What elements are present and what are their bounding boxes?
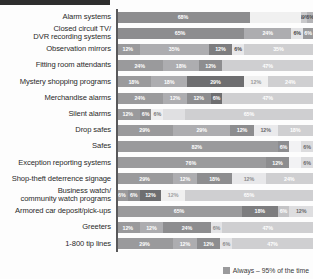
chart-row: Drop safes29%29%12%12%18% (0, 122, 313, 138)
chart-row: Closed circuit TV/ DVR recording systems… (0, 25, 313, 41)
stacked-bar: 12%12%24%6%47% (116, 222, 313, 233)
bar-segment (250, 12, 301, 23)
category-label: Armored car deposit/pick-ups (0, 207, 116, 215)
stacked-bar: 24%12%12%6%47% (116, 93, 313, 104)
bar-segment: 12% (254, 125, 278, 136)
bar-wrapper: 12%35%12%6%35% (116, 41, 313, 57)
category-label: Safes (0, 142, 116, 150)
chart-row: Fitting room attendants24%18%12%47% (0, 58, 313, 74)
bar-segment: 12% (116, 109, 140, 120)
chart-row: Alarm systems68%69%6% (0, 9, 313, 25)
bar-segment: 12% (163, 93, 187, 104)
bar-segment: 65% (116, 206, 242, 217)
bar-segment: 12% (232, 173, 265, 184)
bar-segment (163, 109, 185, 120)
chart-row: Exception reporting systems76%12%6% (0, 155, 313, 171)
plot-area: Alarm systems68%69%6%Closed circuit TV/ … (0, 9, 313, 252)
bar-segment: 12% (199, 60, 223, 71)
bar-segment: 68% (116, 12, 250, 23)
stacked-bar: 65%24%6%6% (116, 28, 313, 39)
bar-wrapper: 12%6%6%65% (116, 106, 313, 122)
bar-wrapper: 76%12%6% (116, 155, 313, 171)
bar-segment: 6% (128, 190, 140, 201)
bar-segment: 65% (185, 109, 313, 120)
legend-swatch-icon (223, 267, 230, 274)
chart-row: Mystery shopping programs18%18%29%12%24% (0, 74, 313, 90)
bar-segment: 18% (197, 173, 232, 184)
bar-segment: 6% (301, 141, 313, 152)
category-label: Business watch/ community watch programs (0, 187, 116, 204)
bar-segment: 6% (211, 93, 223, 104)
chart-row: Safes82%6%6% (0, 139, 313, 155)
stacked-bar: 76%12%6% (116, 157, 313, 168)
legend-label: Always – 95% of the time (233, 267, 309, 274)
stacked-bar: 82%6%6% (116, 141, 313, 152)
chart-legend: Always – 95% of the time (223, 267, 309, 274)
category-label: Fitting room attendants (0, 61, 116, 69)
bar-segment: 18% (151, 76, 186, 87)
bar-segment: 18% (278, 125, 313, 136)
bar-segment (289, 141, 301, 152)
category-label: Alarm systems (0, 13, 116, 21)
bar-segment: 6% (301, 157, 313, 168)
chart-row: Shop-theft deterrence signage29%12%18%12… (0, 171, 313, 187)
stacked-bar: 68%69%6% (116, 12, 313, 23)
bar-segment: 12% (197, 238, 221, 249)
bar-segment: 18% (116, 76, 151, 87)
stacked-bar: 65%18%6%12% (116, 206, 313, 217)
bar-segment: 12% (116, 44, 140, 55)
category-label: Exception reporting systems (0, 159, 116, 167)
bar-segment: 24% (163, 222, 210, 233)
bar-segment: 47% (222, 93, 313, 104)
bar-segment (289, 157, 301, 168)
bar-segment: 29% (173, 125, 230, 136)
bar-segment: 35% (244, 44, 313, 55)
chart-row: Silent alarms12%6%6%65% (0, 106, 313, 122)
bar-wrapper: 29%29%12%12%18% (116, 122, 313, 138)
bar-segment: 12% (230, 125, 254, 136)
category-label: Closed circuit TV/ DVR recording systems (0, 25, 116, 42)
bar-wrapper: 24%18%12%47% (116, 58, 313, 74)
bar-wrapper: 29%12%12%6%47% (116, 236, 313, 252)
bar-segment: 24% (266, 173, 313, 184)
bar-segment: 76% (116, 157, 266, 168)
bar-segment: 82% (116, 141, 278, 152)
bar-wrapper: 29%12%18%12%24% (116, 171, 313, 187)
bar-segment: 6% (278, 141, 290, 152)
bar-segment: 12% (116, 222, 140, 233)
category-label: Greeters (0, 223, 116, 231)
stacked-bar: 6%6%12%12%65% (116, 190, 313, 201)
bar-segment: 24% (116, 93, 163, 104)
chart-row: Business watch/ community watch programs… (0, 187, 313, 203)
category-label: Shop-theft deterrence signage (0, 175, 116, 183)
bar-segment: 12% (173, 238, 197, 249)
stacked-bar-chart: Alarm systems68%69%6%Closed circuit TV/ … (0, 0, 313, 279)
bar-wrapper: 65%24%6%6% (116, 25, 313, 41)
bar-segment: 47% (222, 222, 313, 233)
bar-segment: 18% (163, 60, 198, 71)
bar-segment: 12% (209, 44, 233, 55)
category-label: 1-800 tip lines (0, 240, 116, 248)
bar-segment: 6% (211, 222, 223, 233)
bar-segment: 18% (242, 206, 277, 217)
bar-wrapper: 68%69%6% (116, 9, 313, 25)
bar-segment: 65% (116, 28, 244, 39)
stacked-bar: 29%29%12%12%18% (116, 125, 313, 136)
bar-wrapper: 65%18%6%12% (116, 203, 313, 219)
header-strip (0, 0, 110, 5)
category-label: Drop safes (0, 126, 116, 134)
bar-segment: 6% (291, 28, 303, 39)
chart-row: Merchandise alarms24%12%12%6%47% (0, 90, 313, 106)
bar-segment: 12% (140, 190, 162, 201)
stacked-bar: 29%12%12%6%47% (116, 238, 313, 249)
bar-segment: 65% (185, 190, 313, 201)
stacked-bar: 18%18%29%12%24% (116, 76, 313, 87)
bar-segment: 6% (151, 109, 163, 120)
category-label: Observation mirrors (0, 45, 116, 53)
stacked-bar: 24%18%12%47% (116, 60, 313, 71)
y-axis-line (116, 9, 118, 252)
chart-row: Observation mirrors12%35%12%6%35% (0, 41, 313, 57)
chart-row: Armored car deposit/pick-ups65%18%6%12% (0, 203, 313, 219)
bar-segment: 12% (161, 190, 185, 201)
bar-segment: 29% (116, 173, 173, 184)
